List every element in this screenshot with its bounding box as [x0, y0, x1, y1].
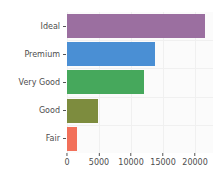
y-tick-mark: [63, 82, 66, 83]
y-tick-label: Very Good: [19, 78, 63, 87]
x-tick-label: 5000: [89, 158, 109, 167]
x-tick-label: 20000: [182, 158, 207, 167]
x-tick-label: 0: [64, 158, 69, 167]
bar-very-good[interactable]: [67, 70, 144, 94]
bar-row: [67, 125, 77, 153]
x-tick-5000: 5000: [89, 153, 109, 167]
y-tick-good: Good: [39, 97, 67, 125]
y-tick-mark: [63, 26, 66, 27]
bar-row: [67, 68, 144, 96]
x-tick-mark: [99, 153, 100, 156]
x-axis: 05000100001500020000: [67, 153, 213, 177]
bar-row: [67, 40, 155, 68]
x-tick-15000: 15000: [150, 153, 175, 167]
y-tick-fair: Fair: [46, 125, 67, 153]
y-tick-very-good: Very Good: [19, 68, 67, 96]
x-tick-mark: [163, 153, 164, 156]
x-tick-label: 15000: [150, 158, 175, 167]
x-tick-label: 10000: [118, 158, 143, 167]
y-tick-label: Fair: [46, 134, 63, 143]
bar-row: [67, 97, 98, 125]
x-tick-10000: 10000: [118, 153, 143, 167]
y-tick-label: Ideal: [41, 22, 63, 31]
x-tick-20000: 20000: [182, 153, 207, 167]
x-tick-mark: [67, 153, 68, 156]
bar-ideal[interactable]: [67, 14, 205, 38]
y-axis: FairGoodVery GoodPremiumIdeal: [0, 12, 67, 153]
bar-premium[interactable]: [67, 42, 155, 66]
y-tick-premium: Premium: [24, 40, 67, 68]
y-tick-mark: [63, 138, 66, 139]
x-tick-mark: [195, 153, 196, 156]
bar-fair[interactable]: [67, 127, 77, 151]
bar-row: [67, 12, 205, 40]
bar-good[interactable]: [67, 99, 98, 123]
y-tick-mark: [63, 110, 66, 111]
bar-chart: FairGoodVery GoodPremiumIdeal 0500010000…: [0, 0, 220, 183]
y-tick-ideal: Ideal: [41, 12, 67, 40]
bars-group: [67, 12, 213, 153]
y-tick-label: Premium: [24, 50, 63, 59]
x-tick-mark: [131, 153, 132, 156]
y-tick-label: Good: [39, 106, 63, 115]
x-tick-0: 0: [64, 153, 69, 167]
y-tick-mark: [63, 54, 66, 55]
